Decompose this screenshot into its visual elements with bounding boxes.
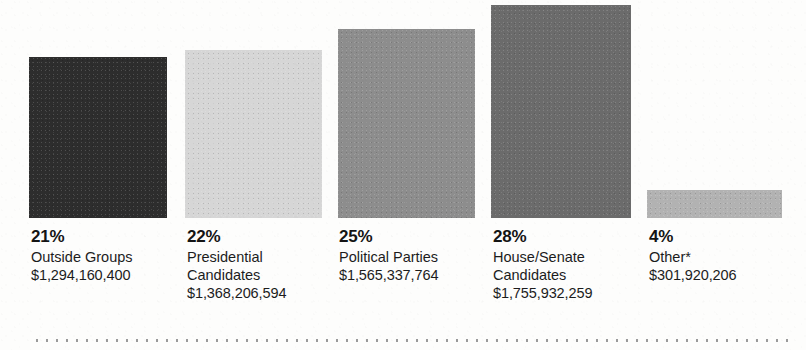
- bar-label-outside-groups: 21% Outside Groups $1,294,160,400: [31, 227, 133, 284]
- bar-percent: 21%: [31, 227, 133, 246]
- bar-percent: 22%: [187, 227, 286, 246]
- bar-category-line1: House/Senate: [493, 248, 592, 266]
- bar-category-line1: Presidential: [187, 248, 286, 266]
- bar-amount: $1,565,337,764: [339, 266, 438, 284]
- bar-house-senate-candidates: [491, 5, 631, 218]
- bar-category-line1: Outside Groups: [31, 248, 133, 266]
- bar-category-line1: Other*: [649, 248, 737, 266]
- bar-category-line1: Political Parties: [339, 248, 438, 266]
- bar-texture: [491, 5, 631, 218]
- bar-chart: 21% Outside Groups $1,294,160,400 22% Pr…: [0, 0, 806, 350]
- bar-presidential-candidates: [185, 50, 322, 218]
- bar-label-other: 4% Other* $301,920,206: [649, 227, 737, 284]
- bar-amount: $1,294,160,400: [31, 266, 133, 284]
- bar-texture: [338, 29, 475, 218]
- bar-percent: 4%: [649, 227, 737, 246]
- bar-amount: $1,368,206,594: [187, 284, 286, 302]
- bar-outside-groups: [29, 57, 167, 218]
- bar-texture: [185, 50, 322, 218]
- bar-category-line2: Candidates: [187, 266, 286, 284]
- dotted-divider: [32, 339, 796, 342]
- bar-other: [647, 190, 782, 218]
- bar-texture: [29, 57, 167, 218]
- bar-label-presidential-candidates: 22% Presidential Candidates $1,368,206,5…: [187, 227, 286, 302]
- bar-texture: [647, 190, 782, 218]
- bar-percent: 25%: [339, 227, 438, 246]
- bar-amount: $301,920,206: [649, 266, 737, 284]
- bar-label-house-senate-candidates: 28% House/Senate Candidates $1,755,932,2…: [493, 227, 592, 302]
- bar-political-parties: [338, 29, 475, 218]
- bar-percent: 28%: [493, 227, 592, 246]
- bar-amount: $1,755,932,259: [493, 284, 592, 302]
- bar-label-political-parties: 25% Political Parties $1,565,337,764: [339, 227, 438, 284]
- bar-category-line2: Candidates: [493, 266, 592, 284]
